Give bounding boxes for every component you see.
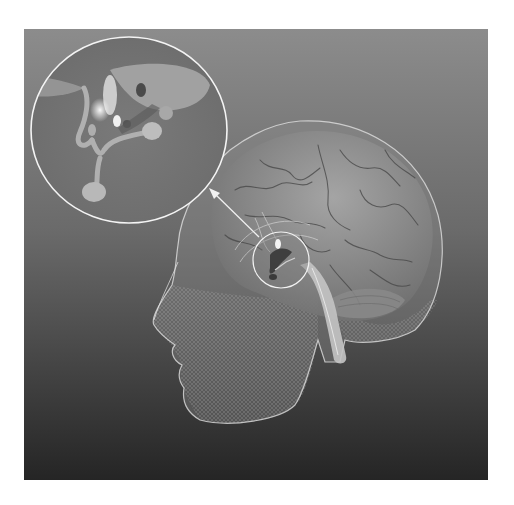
magnified-callout-circle [30, 37, 227, 223]
small-callout-circle [253, 232, 309, 288]
illustration-figure: 3D rendered transparent human head with … [24, 29, 488, 480]
